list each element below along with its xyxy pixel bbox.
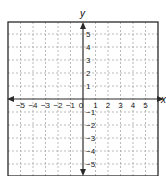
x-tick-label: −4 bbox=[28, 101, 38, 110]
y-tick-label: 2 bbox=[86, 69, 91, 78]
y-tick-label: 5 bbox=[86, 30, 91, 39]
x-tick-label: −5 bbox=[16, 101, 26, 110]
x-tick-label: 2 bbox=[106, 101, 111, 110]
x-tick-label: 0 bbox=[79, 101, 84, 110]
y-tick-label: −1 bbox=[86, 108, 96, 117]
x-tick-label: 4 bbox=[131, 101, 136, 110]
x-tick-label: 3 bbox=[118, 101, 123, 110]
x-axis-label: x bbox=[160, 94, 166, 105]
y-tick-label: −2 bbox=[86, 121, 96, 130]
x-tick-label: −1 bbox=[66, 101, 76, 110]
y-tick-label: −5 bbox=[86, 160, 96, 169]
y-tick-label: −4 bbox=[86, 147, 96, 156]
coordinate-grid-chart: −5−4−3−2−101234554321−1−2−3−4−5 x y bbox=[0, 0, 166, 176]
x-tick-label: 5 bbox=[143, 101, 148, 110]
y-axis-arrow-up-icon bbox=[80, 22, 86, 29]
y-tick-label: 4 bbox=[86, 43, 91, 52]
y-axis-label: y bbox=[79, 8, 86, 19]
x-tick-label: −2 bbox=[53, 101, 63, 110]
y-tick-label: −3 bbox=[86, 134, 96, 143]
y-axis-arrow-down-icon bbox=[80, 169, 86, 176]
y-tick-label: 3 bbox=[86, 56, 91, 65]
y-tick-label: 1 bbox=[86, 82, 91, 91]
x-tick-label: −3 bbox=[41, 101, 51, 110]
